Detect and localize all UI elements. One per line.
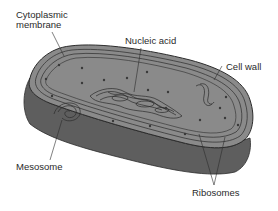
label-membrane-line2: membrane	[16, 20, 68, 30]
label-ribosomes: Ribosomes	[192, 188, 240, 198]
bacterial-cell-diagram	[0, 0, 278, 211]
label-nucleic-acid: Nucleic acid	[125, 36, 176, 46]
label-mesosome: Mesosome	[16, 162, 62, 172]
label-cell-wall: Cell wall	[226, 62, 261, 72]
label-cytoplasmic-membrane: Cytoplasmic membrane	[16, 10, 68, 30]
